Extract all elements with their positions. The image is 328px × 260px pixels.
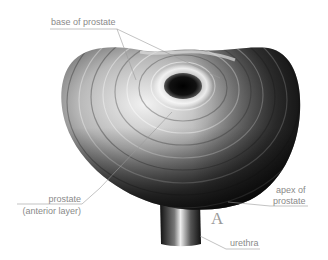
prostate-illustration: base of prostate prostate (anterior laye… (0, 0, 328, 260)
label-urethra: urethra (230, 238, 259, 248)
plate-letter: A (211, 210, 223, 228)
urethral-opening (164, 73, 202, 99)
label-anterior-layer: (anterior layer) (12, 206, 81, 216)
prostate-drawing (0, 0, 328, 260)
label-apex-prostate: prostate (273, 196, 306, 206)
label-apex-of: apex of (276, 185, 306, 195)
label-base-of-prostate: base of prostate (51, 17, 116, 27)
label-prostate: prostate (17, 194, 81, 204)
